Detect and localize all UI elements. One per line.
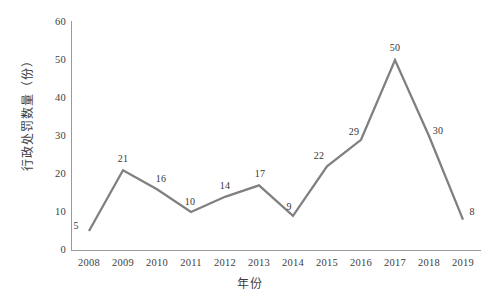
data-point-label: 9 bbox=[277, 202, 301, 212]
data-point-label: 29 bbox=[342, 127, 366, 137]
data-point-label: 30 bbox=[426, 126, 450, 136]
line-series bbox=[72, 22, 480, 250]
data-point-label: 5 bbox=[64, 221, 88, 231]
series-polyline bbox=[89, 60, 463, 231]
x-axis-title: 年份 bbox=[0, 278, 500, 291]
data-point-label: 17 bbox=[248, 169, 272, 179]
y-axis-tick-label: 0 bbox=[40, 245, 66, 256]
y-axis-tick-labels: 0102030405060 bbox=[38, 0, 66, 308]
y-axis-tick-label: 30 bbox=[40, 131, 66, 142]
y-axis-tick-label: 10 bbox=[40, 207, 66, 218]
y-axis-title: 行政处罚数量（份） bbox=[22, 23, 35, 203]
y-axis-tick-label: 20 bbox=[40, 169, 66, 180]
data-point-label: 16 bbox=[149, 174, 173, 184]
y-axis-tick-label: 60 bbox=[40, 17, 66, 28]
data-point-label: 14 bbox=[213, 181, 237, 191]
data-point-label: 22 bbox=[307, 151, 331, 161]
data-point-label: 21 bbox=[111, 154, 135, 164]
data-point-label: 10 bbox=[178, 197, 202, 207]
y-axis-tick-label: 40 bbox=[40, 93, 66, 104]
x-axis-line bbox=[71, 250, 481, 251]
data-point-label: 50 bbox=[383, 43, 407, 53]
chart-figure: 0102030405060 行政处罚数量（份） 5211610141792229… bbox=[0, 0, 500, 308]
y-axis-tick-label: 50 bbox=[40, 55, 66, 66]
x-axis-tick-label: 2019 bbox=[443, 257, 483, 268]
plot-area: 521161014179222950308 bbox=[72, 22, 480, 250]
data-point-label: 8 bbox=[460, 207, 484, 217]
